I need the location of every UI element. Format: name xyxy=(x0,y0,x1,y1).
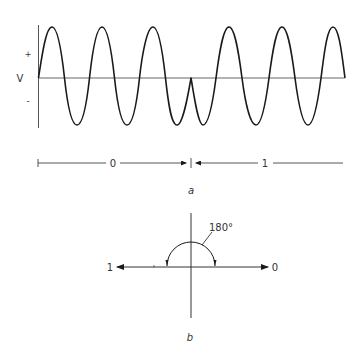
v-axis-label: V xyxy=(17,73,24,84)
angle-label: 180° xyxy=(209,222,233,233)
timing-bar: 0 1 xyxy=(38,158,343,169)
phasor-0-label: 0 xyxy=(272,262,278,273)
caption-b: b xyxy=(187,332,193,343)
caption-a: a xyxy=(188,185,194,196)
angle-leader xyxy=(202,232,212,245)
bit-0-label: 0 xyxy=(110,158,116,169)
phasor-1-label: 1 xyxy=(107,262,113,273)
bpsk-waveform xyxy=(39,27,346,125)
bit-1-label: 1 xyxy=(262,158,268,169)
minus-sign: - xyxy=(26,96,29,106)
bpsk-diagram: + V - 0 1 a 1 0 180° b xyxy=(0,0,360,355)
figure-a-waveform: + V - xyxy=(17,25,345,128)
plus-sign: + xyxy=(25,50,32,59)
figure-b-phasor: 1 0 180° xyxy=(107,213,278,318)
